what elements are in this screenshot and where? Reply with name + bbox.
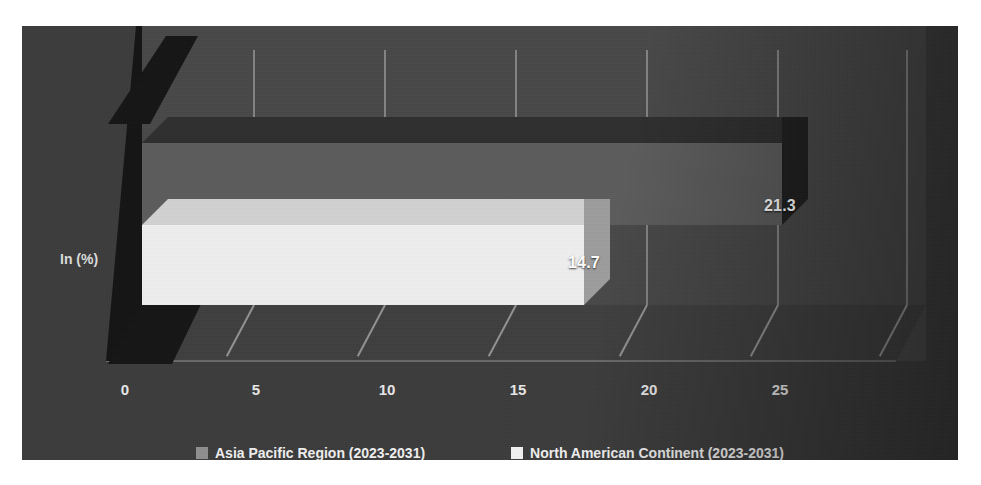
chart-figure: 21.3 14.7 In (%) 0 5 10 15 20 25 Asia Pa… <box>0 0 981 485</box>
legend-label-asia-pacific: Asia Pacific Region (2023-2031) <box>215 445 425 460</box>
bar-north-america-top-face <box>142 199 584 225</box>
bar-north-america-front-face <box>142 225 584 305</box>
x-tick-label-25: 25 <box>772 381 789 398</box>
legend-swatch-icon-north-america <box>511 447 523 459</box>
x-tick-label-0: 0 <box>121 381 129 398</box>
value-label-north-america: 14.7 <box>568 254 600 272</box>
gridline-vertical-end <box>906 50 908 305</box>
x-tick-label-10: 10 <box>379 381 396 398</box>
plot-area-3d: 21.3 14.7 <box>22 26 958 460</box>
x-tick-label-20: 20 <box>641 381 658 398</box>
bar-asia-pacific-top-face <box>142 117 782 143</box>
chart-canvas: 21.3 14.7 In (%) 0 5 10 15 20 25 Asia Pa… <box>22 26 958 460</box>
legend-swatch-icon-asia-pacific <box>196 447 208 459</box>
chart-legend: Asia Pacific Region (2023-2031) North Am… <box>22 445 958 460</box>
legend-label-north-america: North American Continent (2023-2031) <box>530 445 784 460</box>
floor-front-edge <box>106 360 896 362</box>
value-label-asia-pacific: 21.3 <box>764 197 796 215</box>
x-tick-label-15: 15 <box>510 381 527 398</box>
legend-item-north-america[interactable]: North American Continent (2023-2031) <box>511 445 784 460</box>
bar-north-american-continent[interactable] <box>142 225 584 305</box>
x-tick-label-5: 5 <box>252 381 260 398</box>
y-axis-title: In (%) <box>60 251 98 267</box>
legend-item-asia-pacific[interactable]: Asia Pacific Region (2023-2031) <box>196 445 425 460</box>
